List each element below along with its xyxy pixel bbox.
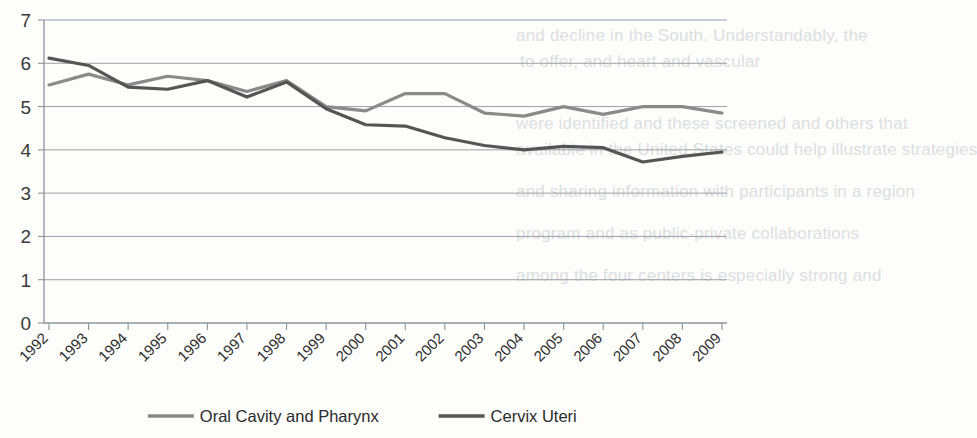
x-axis-tick-label: 2004 bbox=[491, 329, 527, 365]
y-axis-tick-label: 1 bbox=[20, 270, 31, 291]
x-axis-tick-label: 1995 bbox=[134, 329, 170, 365]
y-axis-tick-label: 4 bbox=[20, 140, 31, 161]
chart-legend: Oral Cavity and PharynxCervix Uteri bbox=[148, 407, 577, 425]
x-axis-tick-label: 1996 bbox=[174, 329, 210, 365]
x-axis-tick-label: 2001 bbox=[372, 329, 408, 365]
x-axis-tick-label: 2007 bbox=[609, 329, 645, 365]
gridlines bbox=[44, 20, 727, 280]
y-axis-tick-label: 3 bbox=[20, 183, 31, 204]
y-axis: 01234567 bbox=[20, 10, 44, 334]
y-axis-tick-label: 0 bbox=[20, 313, 31, 334]
y-axis-tick-label: 7 bbox=[20, 10, 31, 31]
x-axis: 1992199319941995199619971998199920002001… bbox=[16, 323, 727, 365]
x-axis-tick-label: 1999 bbox=[293, 329, 329, 365]
series-line-oral-cavity-and-pharynx bbox=[49, 74, 722, 116]
y-axis-tick-label: 5 bbox=[20, 97, 31, 118]
x-axis-tick-label: 2000 bbox=[332, 329, 368, 365]
x-axis-tick-label: 1993 bbox=[55, 329, 91, 365]
y-axis-tick-label: 6 bbox=[20, 53, 31, 74]
x-axis-tick-label: 2009 bbox=[689, 329, 725, 365]
x-axis-tick-label: 1992 bbox=[16, 329, 52, 365]
x-axis-tick-label: 2008 bbox=[649, 329, 685, 365]
x-axis-tick-label: 1994 bbox=[95, 329, 131, 365]
x-axis-tick-label: 2002 bbox=[411, 329, 447, 365]
data-series-group bbox=[49, 58, 722, 162]
y-axis-tick-label: 2 bbox=[20, 226, 31, 247]
x-axis-tick-label: 2005 bbox=[530, 329, 566, 365]
x-axis-tick-label: 1998 bbox=[253, 329, 289, 365]
x-axis-tick-label: 1997 bbox=[213, 329, 249, 365]
x-axis-tick-label: 2006 bbox=[570, 329, 606, 365]
legend-label: Cervix Uteri bbox=[491, 407, 577, 425]
legend-label: Oral Cavity and Pharynx bbox=[200, 407, 380, 425]
x-axis-tick-label: 2003 bbox=[451, 329, 487, 365]
